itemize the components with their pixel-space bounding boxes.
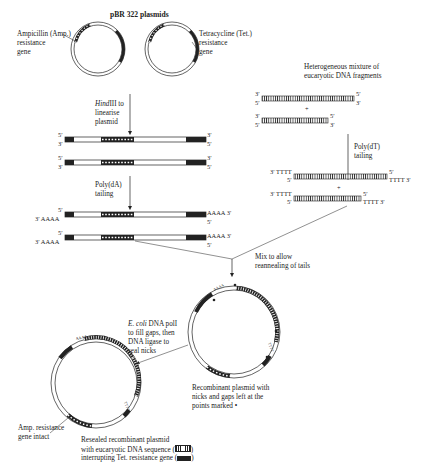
ecoli-text: seal nicks [128, 347, 156, 355]
amp-intact-line: Amp. resistance [18, 424, 64, 432]
amp-label-line: gene [17, 48, 31, 56]
fragments-label-line: Heterogeneous mixture of [304, 63, 379, 71]
end-5: 5′ [58, 154, 63, 162]
amp-label-line: Ampicillin (Amp.) [17, 30, 71, 38]
polyt-tail-right: TTTT 3′ [389, 176, 411, 184]
resealed-caption-line: interrupting Tet. resistance gene ( [81, 454, 177, 462]
ecoli-text: DNA polI [147, 320, 177, 328]
tet-label-line: Tetracycline (Tet.) [199, 30, 252, 38]
end-5: 5′ [58, 206, 63, 214]
end-5: 5′ [330, 112, 335, 120]
eucaryotic-dna-legend-icon [175, 445, 191, 452]
mix-text: Mix to allow [255, 253, 292, 261]
end-5: 5′ [356, 90, 361, 98]
end-3: 3′ [330, 121, 335, 129]
hindiii-text: plasmid [95, 118, 118, 126]
plus-sign: + [337, 184, 341, 192]
end-5: 5′ [255, 99, 260, 107]
tailed-plasmid-1 [65, 212, 206, 217]
linear-plasmid-1 [65, 137, 206, 142]
polyda-text: Poly(dA) [95, 181, 122, 189]
tailed-plasmid-2 [65, 235, 206, 240]
svg-text:AAAA: AAAA [212, 282, 225, 291]
end-5: 5′ [255, 121, 260, 129]
svg-text:TTTT: TTTT [267, 342, 275, 353]
resealed-caption-line: Resealed recombinant plasmid [81, 436, 169, 444]
end-3: 3′ [58, 140, 63, 148]
dna-fragment-1 [262, 96, 354, 101]
plus-sign: + [305, 105, 309, 113]
polyda-text: tailing [95, 190, 113, 198]
converge-line-left [135, 241, 232, 259]
end-5: 5′ [287, 198, 292, 206]
tailed-fragment-1 [294, 174, 387, 179]
end-3: 3′ [207, 154, 212, 162]
fragments-label-line: eucaryotic DNA fragments [304, 72, 381, 80]
dna-fragment-2 [262, 118, 328, 123]
plasmid-left [71, 22, 125, 76]
end-5: 5′ [207, 218, 212, 226]
plasmid-right [145, 22, 199, 76]
amp-intact-line: gene intact [18, 433, 49, 441]
hindiii-text: III to [109, 100, 124, 108]
polydt-text: tailing [354, 152, 372, 160]
ecoli-text: DNA ligase to [128, 338, 169, 346]
resealed-caption-line: with eucaryotic DNA sequence ( [81, 446, 175, 454]
amp-label-line: resistance [17, 39, 45, 47]
end-3: 3′ [58, 163, 63, 171]
end-3: 3′ [356, 99, 361, 107]
svg-text:TTTT: TTTT [123, 401, 131, 412]
recombinant-caption-line: Recombinant plasmid with [192, 384, 269, 392]
recombinant-caption-line: points marked • [192, 402, 237, 410]
polya-tail-right: AAAA 3′ [207, 232, 231, 240]
converge-line-right [232, 206, 347, 259]
polydt-text: Poly(dT) [354, 143, 380, 151]
mix-text: reannealing of tails [255, 262, 310, 270]
polya-tail-left: 3′ AAAA [35, 238, 59, 246]
hindiii-text: linearise [95, 109, 119, 117]
polya-tail-right: AAAA 3′ [207, 209, 231, 217]
linear-plasmid-2 [65, 160, 206, 165]
legend-paren: ) [191, 454, 193, 462]
tet-label-line: gene [199, 48, 213, 56]
end-5: 5′ [287, 176, 292, 184]
recombinant-caption-line: nicks and gaps left at the [192, 393, 263, 401]
end-5: 5′ [207, 163, 212, 171]
end-5: 5′ [58, 229, 63, 237]
end-5: 5′ [207, 241, 212, 249]
tailed-fragment-2 [294, 196, 361, 201]
end-3: 3′ [207, 131, 212, 139]
tet-label-line: resistance [199, 39, 227, 47]
end-3: 3′ [255, 90, 260, 98]
ecoli-text: to fill gaps, then [128, 329, 175, 337]
recombinant-plasmid: AAAA TTTT [188, 282, 280, 378]
polyt-tail-right: TTTT 3′ [363, 198, 385, 206]
end-5: 5′ [58, 131, 63, 139]
ecoli-organism: E. coli [128, 320, 147, 328]
polya-tail-left: 3′ AAAA [35, 215, 59, 223]
end-3: 3′ [255, 112, 260, 120]
legend-paren: ) [191, 446, 193, 454]
hindiii-enzyme: Hind [95, 100, 109, 108]
diagram-title: pBR 322 plasmids [110, 11, 169, 19]
end-5: 5′ [207, 140, 212, 148]
tet-gene-legend-icon [177, 456, 191, 461]
